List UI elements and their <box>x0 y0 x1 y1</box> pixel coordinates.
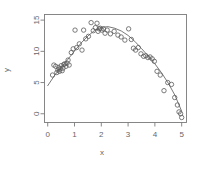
data-points <box>50 20 184 119</box>
data-point <box>81 28 85 32</box>
data-point <box>73 28 77 32</box>
data-point <box>95 21 99 25</box>
x-axis-title: x <box>100 148 104 157</box>
y-tick-label: 5 <box>33 80 42 85</box>
x-tick-label: 5 <box>179 130 184 139</box>
y-axis-tick-marks <box>41 20 45 114</box>
fitted-curve <box>48 27 182 112</box>
data-point <box>123 38 127 42</box>
x-tick-label: 1 <box>72 130 77 139</box>
data-point <box>50 73 54 77</box>
x-tick-label: 2 <box>99 130 104 139</box>
data-point <box>80 48 84 52</box>
data-point <box>112 29 116 33</box>
data-point <box>162 88 166 92</box>
data-point <box>86 34 90 38</box>
y-tick-label: 10 <box>33 46 42 55</box>
chart-canvas: 012345 051015 x y <box>0 0 198 175</box>
data-point <box>89 20 93 24</box>
y-axis-title: y <box>2 68 11 72</box>
x-tick-label: 0 <box>45 130 50 139</box>
y-tick-label: 0 <box>33 111 42 116</box>
data-point <box>136 45 140 49</box>
data-point <box>155 69 159 73</box>
data-point <box>139 52 143 56</box>
x-axis-tick-labels: 012345 <box>45 130 184 139</box>
data-point <box>169 82 173 86</box>
x-tick-label: 3 <box>126 130 131 139</box>
data-point <box>158 73 162 77</box>
scatter-plot-figure: 012345 051015 x y <box>0 0 198 175</box>
x-axis-tick-marks <box>48 123 182 127</box>
y-tick-label: 15 <box>33 15 42 24</box>
y-axis-tick-labels: 051015 <box>33 15 42 116</box>
data-point <box>126 27 130 31</box>
x-tick-label: 4 <box>153 130 158 139</box>
data-point <box>103 31 107 35</box>
